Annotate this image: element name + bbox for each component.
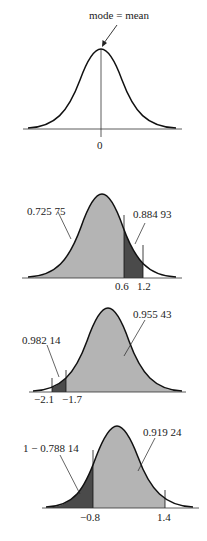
leader-line	[135, 223, 145, 244]
area-label-left: 0.982 14	[22, 334, 61, 346]
tick-label-neg-2.1: −2.1	[34, 393, 54, 405]
tick-label-1.2: 1.2	[137, 280, 151, 292]
arrow-shaft	[104, 25, 117, 43]
arrow-head-icon	[102, 40, 107, 47]
panel-3-normal-curve: 0.982 14 0.955 43 −2.1 −1.7	[22, 300, 186, 405]
leader-line	[60, 455, 80, 494]
area-label-left: 0.725 75	[27, 205, 66, 217]
area-label-right: 0.884 93	[133, 208, 172, 220]
area-label-left: 1 − 0.788 14	[23, 442, 79, 454]
mode-mean-annotation: mode = mean	[89, 9, 149, 21]
panel-4-normal-curve: 1 − 0.788 14 0.919 24 −0.8 1.4	[23, 420, 199, 523]
panel-2-normal-curve: 0.725 75 0.884 93 0.6 1.2	[20, 180, 182, 292]
dark-area	[40, 420, 93, 512]
area-label-right: 0.919 24	[143, 426, 182, 438]
panel-1-normal-curve: mode = mean 0	[23, 9, 182, 151]
leader-line	[138, 438, 155, 471]
dark-area	[124, 180, 143, 280]
light-area	[20, 180, 124, 280]
tick-label-0.6: 0.6	[115, 280, 129, 292]
tick-label-1.4: 1.4	[157, 511, 171, 523]
tick-label-neg-1.7: −1.7	[62, 393, 82, 405]
area-label-right: 0.955 43	[133, 308, 172, 320]
leader-line	[47, 345, 59, 377]
tick-label-0: 0	[97, 139, 103, 151]
tick-label-neg-0.8: −0.8	[80, 511, 100, 523]
